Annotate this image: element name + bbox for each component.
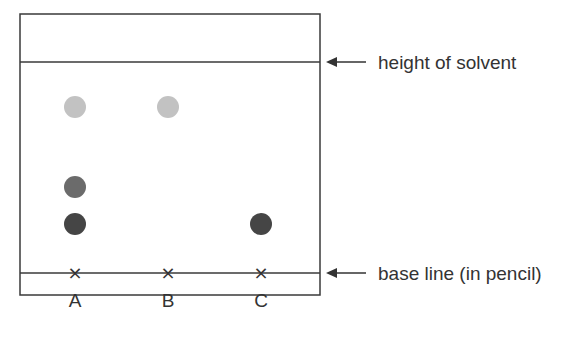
lane-label-c: C bbox=[254, 290, 268, 311]
lane-label-a: A bbox=[69, 290, 82, 311]
chromatogram-diagram: ×A×B×C height of solvent base line (in p… bbox=[0, 0, 564, 337]
spot-c-dark bbox=[250, 213, 272, 235]
start-mark-a: × bbox=[67, 262, 82, 283]
baseline-label: base line (in pencil) bbox=[378, 263, 542, 284]
solvent-arrow-icon bbox=[326, 57, 366, 67]
spot-a-dark bbox=[64, 213, 86, 235]
spots-group bbox=[64, 96, 272, 235]
spot-a-light bbox=[64, 96, 86, 118]
start-mark-b: × bbox=[160, 262, 175, 283]
solvent-label: height of solvent bbox=[378, 52, 517, 73]
start-marks-group: ×A×B×C bbox=[67, 262, 268, 311]
spot-a-medium bbox=[64, 176, 86, 198]
spot-b-light bbox=[157, 96, 179, 118]
start-mark-c: × bbox=[253, 262, 268, 283]
paper-outline bbox=[20, 14, 320, 295]
baseline-arrow-icon bbox=[326, 268, 366, 278]
lane-label-b: B bbox=[162, 290, 175, 311]
